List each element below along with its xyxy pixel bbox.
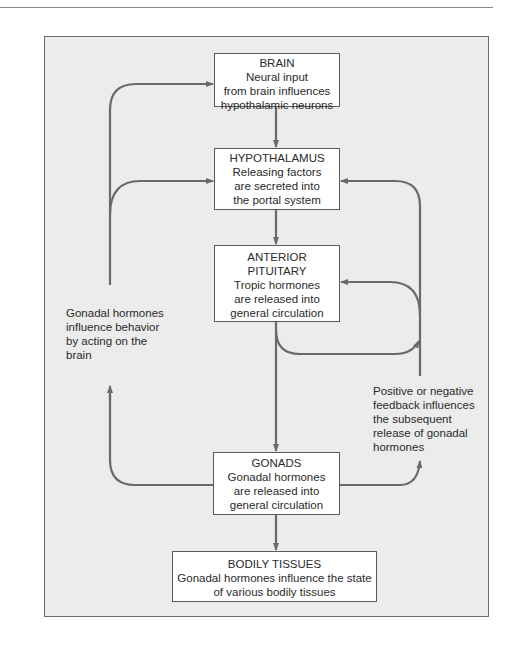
node-bodily-tissues: BODILY TISSUES Gonadal hormones influenc… [172,551,377,602]
annotation-right-line: feedback influences [373,398,489,412]
node-hypothalamus-title: HYPOTHALAMUS [215,151,339,165]
node-brain-line: from brain influences [215,84,339,98]
node-brain: BRAIN Neural input from brain influences… [214,53,340,107]
node-brain-line: hypothalamic neurons [215,98,339,112]
arrow-gonads-left-loop [110,395,213,485]
annotation-right-line: Positive or negative [373,384,489,398]
node-pituitary-line: Tropic hormones [215,278,339,292]
annotation-left-line: influence behavior [66,320,176,334]
annotation-left-line: Gonadal hormones [66,306,176,320]
annotation-left-behavior: Gonadal hormones influence behavior by a… [66,306,176,362]
node-bodily-tissues-line: of various bodily tissues [173,585,376,599]
node-hypothalamus-line: the portal system [215,193,339,207]
node-pituitary-line: general circulation [215,306,339,320]
node-hypothalamus-line: Releasing factors [215,165,339,179]
node-hypothalamus-line: are secreted into [215,179,339,193]
node-gonads-title: GONADS [214,456,339,470]
node-hypothalamus: HYPOTHALAMUS Releasing factors are secre… [214,148,340,210]
node-pituitary-title: ANTERIOR [215,250,339,264]
arrow-gonads-to-feedback [339,461,420,485]
annotation-right-feedback: Positive or negative feedback influences… [373,384,489,454]
arrow-feedback-to-hypothalamus [341,181,420,376]
arrow-feedback-to-pituitary [341,282,420,315]
node-gonads: GONADS Gonadal hormones are released int… [213,452,340,515]
annotation-left-line: brain [66,348,176,362]
node-brain-line: Neural input [215,70,339,84]
node-bodily-tissues-title: BODILY TISSUES [173,557,376,571]
arrow-left-to-hypothalamus [110,181,213,215]
node-gonads-line: Gonadal hormones [214,470,339,484]
node-anterior-pituitary: ANTERIOR PITUITARY Tropic hormones are r… [214,245,340,322]
annotation-left-line: by acting on the [66,334,176,348]
node-pituitary-title: PITUITARY [215,264,339,278]
node-gonads-line: are released into [214,484,339,498]
node-pituitary-line: are released into [215,292,339,306]
node-gonads-line: general circulation [214,498,339,512]
arrow-pituitary-to-feedback [276,330,419,354]
annotation-right-line: release of gonadal [373,426,489,440]
annotation-right-line: the subsequent [373,412,489,426]
node-bodily-tissues-line: Gonadal hormones influence the state [173,571,376,585]
node-brain-title: BRAIN [215,56,339,70]
annotation-right-line: hormones [373,440,489,454]
